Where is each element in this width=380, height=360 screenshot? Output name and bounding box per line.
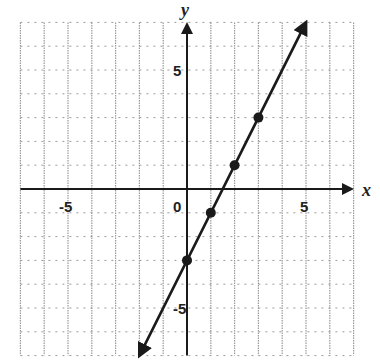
x-tick-label: 0 xyxy=(173,198,181,215)
data-point xyxy=(206,208,216,218)
data-point xyxy=(182,255,192,265)
x-tick-label: -5 xyxy=(59,198,72,215)
y-tick-label: 5 xyxy=(173,62,181,79)
x-axis-label: x xyxy=(361,180,371,200)
data-point xyxy=(253,113,263,123)
coordinate-plane: xy -5055-5 xyxy=(0,0,380,360)
y-tick-label: -5 xyxy=(173,300,186,317)
data-point xyxy=(230,160,240,170)
x-tick-label: 5 xyxy=(300,198,308,215)
y-axis-label: y xyxy=(179,0,190,20)
axes: xy xyxy=(20,0,371,356)
